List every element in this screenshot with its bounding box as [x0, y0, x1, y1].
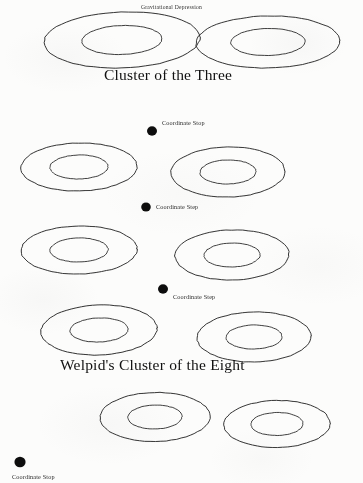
gravitational-depression-well [20, 142, 137, 192]
well-outer-ellipse [43, 9, 201, 70]
heading-cluster-of-the-three: Cluster of the Three [104, 66, 232, 84]
gravitational-depression-well [170, 146, 285, 198]
well-inner-ellipse [50, 237, 109, 262]
coordinate-marker-dot [147, 126, 157, 135]
coordinate-marker-dot [158, 284, 168, 293]
coordinate-marker-dot [141, 202, 151, 211]
coordinate-marker-dot [14, 457, 25, 468]
gravitational-depression-well [43, 9, 201, 70]
coordinate-step-label-2: Coordinate Step [173, 293, 215, 300]
gravitational-depression-well [40, 303, 158, 357]
well-inner-ellipse [81, 24, 162, 56]
gravitational-depression-well [223, 399, 331, 448]
well-outer-ellipse [174, 229, 289, 281]
gravitational-depression-well [100, 391, 211, 442]
well-outer-ellipse [100, 391, 211, 442]
well-outer-ellipse [170, 146, 285, 198]
well-outer-ellipse [40, 303, 158, 357]
well-inner-ellipse [200, 160, 257, 185]
gravitational-depression-label: Gravitational Depression [141, 4, 202, 10]
well-inner-ellipse [251, 412, 303, 436]
well-inner-ellipse [128, 405, 183, 430]
gravitational-depression-well [21, 225, 138, 275]
gravitational-depression-well [195, 15, 340, 70]
well-inner-ellipse [204, 243, 261, 268]
well-outer-ellipse [21, 225, 138, 275]
heading-welpids-cluster-of-the-eight: Welpid's Cluster of the Eight [60, 356, 245, 374]
coordinate-stop-label-1: Coordinate Stop [162, 119, 205, 126]
coordinate-stop-label-2: Coordinate Stop [12, 473, 55, 480]
scanned-page: Gravitational Depression Cluster of the … [0, 0, 363, 483]
well-outer-ellipse [223, 399, 331, 448]
well-outer-ellipse [20, 142, 137, 192]
well-outer-ellipse [195, 15, 340, 70]
coordinate-step-label-1: Coordinate Step [156, 203, 198, 210]
well-inner-ellipse [226, 324, 282, 349]
gravitational-depression-well [174, 229, 289, 281]
well-inner-ellipse [230, 28, 305, 56]
well-inner-ellipse [69, 317, 128, 343]
well-inner-ellipse [50, 154, 109, 179]
